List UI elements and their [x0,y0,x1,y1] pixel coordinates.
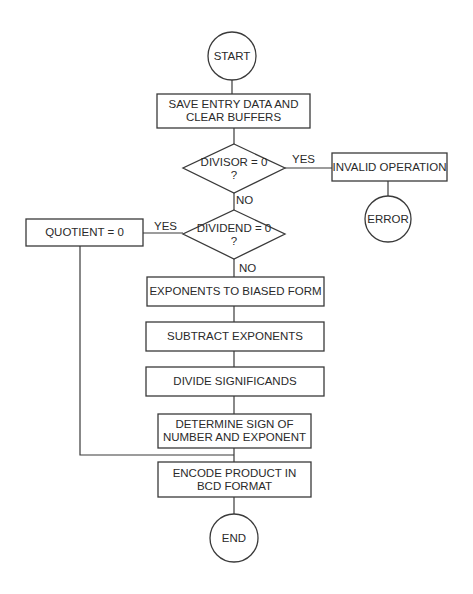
divisor-no-label: NO [236,194,253,207]
error-label: ERROR [365,196,411,242]
determine-label: DETERMINE SIGN OF NUMBER AND EXPONENT [158,414,311,448]
subtract-label: SUBTRACT EXPONENTS [146,322,324,351]
dividend-yes-label: YES [154,220,177,233]
dividend-label: DIVIDEND = 0 ? [183,210,285,259]
divisor-yes-label: YES [292,153,315,166]
divide-label: DIVIDE SIGNIFICANDS [146,367,324,396]
invalid-operation-label: INVALID OPERATION [332,153,447,181]
save-entry-label: SAVE ENTRY DATA AND CLEAR BUFFERS [157,94,310,128]
exponents-label: EXPONENTS TO BIASED FORM [147,277,324,306]
divisor-label: DIVISOR = 0 ? [183,144,285,193]
end-label: END [210,514,258,562]
start-label: START [208,32,256,80]
dividend-no-label: NO [239,262,256,275]
quotient-label: QUOTIENT = 0 [26,219,143,246]
encode-label: ENCODE PRODUCT IN BCD FORMAT [158,462,311,497]
